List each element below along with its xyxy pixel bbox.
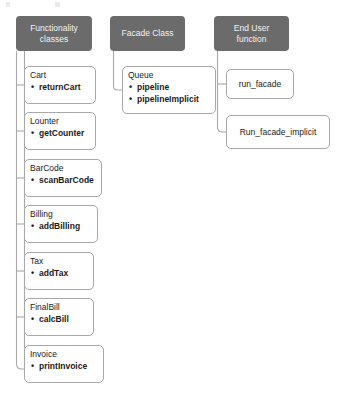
class-member-list: getCounter <box>30 127 90 139</box>
class-member: getCounter <box>30 127 90 139</box>
class-member: scanBarCode <box>30 174 96 186</box>
class-node-title: Cart <box>30 70 90 81</box>
class-node-title: Queue <box>128 70 210 81</box>
class-node-tax: Tax addTax <box>24 252 94 290</box>
class-member: calcBill <box>30 313 88 325</box>
class-node-title: Lounter <box>30 116 90 127</box>
class-node-title: Invoice <box>30 349 98 360</box>
function-node-label: Run_facade_implicit <box>240 127 317 138</box>
class-member-list: addBilling <box>30 220 92 232</box>
class-member: returnCart <box>30 81 90 93</box>
group-header-end-user-function: End User function <box>214 16 289 51</box>
class-member: addTax <box>30 267 88 279</box>
function-node-run-facade-implicit: Run_facade_implicit <box>226 115 330 149</box>
class-node-title: Billing <box>30 209 92 220</box>
class-member-list: addTax <box>30 267 88 279</box>
class-node-title: FinalBill <box>30 302 88 313</box>
class-node-title: Tax <box>30 256 88 267</box>
class-member-list: pipeline pipelineImplicit <box>128 81 210 105</box>
scan-artifact <box>6 2 10 7</box>
group-header-label: End User function <box>234 23 269 45</box>
class-member-list: returnCart <box>30 81 90 93</box>
class-member-list: printInvoice <box>30 360 98 372</box>
class-node-cart: Cart returnCart <box>24 66 96 104</box>
class-node-invoice: Invoice printInvoice <box>24 345 104 383</box>
class-member-list: scanBarCode <box>30 174 96 186</box>
group-header-label: Functionality classes <box>30 23 78 45</box>
class-member-list: calcBill <box>30 313 88 325</box>
group-header-functionality-classes: Functionality classes <box>16 16 92 51</box>
facade-pattern-diagram: Functionality classes Facade Class End U… <box>0 0 339 410</box>
scan-artifact <box>55 2 60 7</box>
group-header-label: Facade Class <box>122 28 174 39</box>
class-member: printInvoice <box>30 360 98 372</box>
group-header-facade-class: Facade Class <box>110 16 185 51</box>
class-node-counter: Lounter getCounter <box>24 112 96 150</box>
class-member: addBilling <box>30 220 92 232</box>
function-node-label: run_facade <box>239 79 282 90</box>
class-node-billing: Billing addBilling <box>24 205 98 243</box>
function-node-run-facade: run_facade <box>226 69 294 99</box>
class-node-title: BarCode <box>30 163 96 174</box>
class-node-queue: Queue pipeline pipelineImplicit <box>122 66 216 114</box>
class-node-finalbill: FinalBill calcBill <box>24 298 94 336</box>
class-member: pipelineImplicit <box>128 93 210 105</box>
class-node-barcode: BarCode scanBarCode <box>24 159 102 197</box>
class-member: pipeline <box>128 81 210 93</box>
